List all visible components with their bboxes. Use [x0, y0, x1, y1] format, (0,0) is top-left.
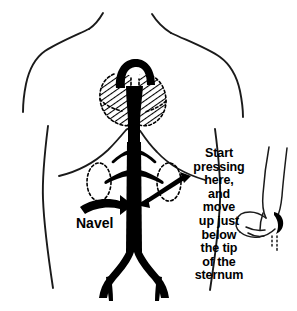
instruction-pointer-arrow — [136, 172, 191, 208]
instruction-line-4: and — [186, 188, 252, 202]
aortic-arch — [116, 59, 155, 88]
anatomy-illustration: Start pressing here, and move up just be… — [0, 0, 297, 311]
instruction-line-5: move — [186, 201, 252, 215]
instruction-line-1: Start — [186, 147, 252, 161]
instruction-line-9: of the — [186, 256, 252, 270]
instruction-line-3: here, — [186, 174, 252, 188]
instruction-line-7: below — [186, 229, 252, 243]
torso-diagram-svg — [0, 0, 297, 311]
instruction-text-block: Start pressing here, and move up just be… — [186, 147, 252, 283]
navel-label: Navel — [76, 215, 113, 231]
aorta — [126, 86, 143, 252]
iliac-arteries — [99, 248, 169, 301]
instruction-line-10: sternum — [186, 269, 252, 283]
instruction-line-2: pressing — [186, 161, 252, 175]
instruction-line-8: the tip — [186, 242, 252, 256]
instruction-line-6: up just — [186, 215, 252, 229]
